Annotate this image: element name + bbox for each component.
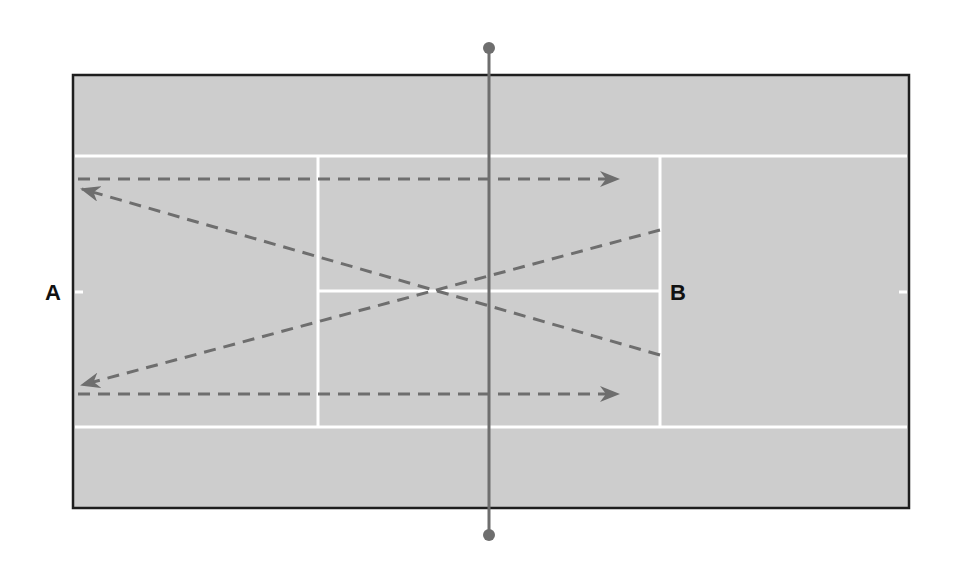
tennis-court-diagram xyxy=(0,0,957,565)
net-post-top-icon xyxy=(483,42,495,54)
player-a-label: A xyxy=(45,282,61,304)
net-post-bottom-icon xyxy=(483,529,495,541)
player-b-label: B xyxy=(670,282,686,304)
